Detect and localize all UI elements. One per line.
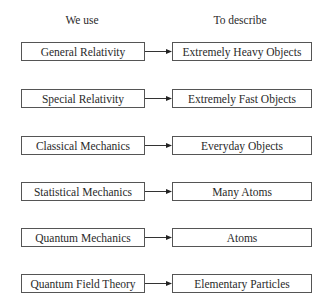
domain-box: Many Atoms bbox=[172, 182, 312, 201]
arrow-right-icon bbox=[145, 141, 172, 150]
domain-box: Everyday Objects bbox=[172, 136, 312, 155]
arrow-right-icon bbox=[145, 233, 172, 242]
theory-box: Quantum Mechanics bbox=[21, 228, 145, 247]
theory-box: Classical Mechanics bbox=[21, 136, 145, 155]
theory-box: Special Relativity bbox=[21, 89, 145, 108]
domain-box: Elementary Particles bbox=[172, 274, 312, 293]
domain-box: Extremely Heavy Objects bbox=[172, 42, 312, 61]
arrow-right-icon bbox=[145, 94, 172, 103]
header-we-use: We use bbox=[12, 14, 152, 26]
arrow-right-icon bbox=[145, 187, 172, 196]
theory-box: Statistical Mechanics bbox=[21, 182, 145, 201]
theory-box: Quantum Field Theory bbox=[21, 274, 145, 293]
theory-box: General Relativity bbox=[21, 42, 145, 61]
arrow-right-icon bbox=[145, 47, 172, 56]
domain-box: Extremely Fast Objects bbox=[172, 89, 312, 108]
header-to-describe: To describe bbox=[170, 14, 310, 26]
domain-box: Atoms bbox=[172, 228, 312, 247]
arrow-right-icon bbox=[145, 279, 172, 288]
